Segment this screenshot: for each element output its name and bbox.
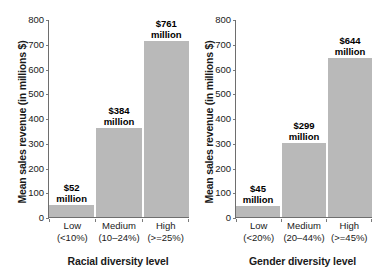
x-tick-sub: (>=45%) bbox=[327, 232, 372, 244]
two-panel-bar-chart-figure: Mean sales revenue (in millions $) 800 7… bbox=[0, 0, 379, 279]
x-tick-label: Low (<10%) bbox=[49, 220, 96, 248]
bar-value-line1: $299 bbox=[293, 120, 314, 131]
chart-panel-racial-diversity: Mean sales revenue (in millions $) 800 7… bbox=[0, 0, 196, 279]
x-tick-label: Medium (10–24%) bbox=[96, 220, 143, 248]
x-tick-main: Medium bbox=[287, 220, 321, 231]
bar-value-line1: $644 bbox=[339, 35, 360, 46]
bar-value-label: $52 million bbox=[40, 182, 104, 204]
x-axis-tick-labels: Low (<20%) Medium (20–44%) High (>=45%) bbox=[236, 220, 372, 248]
y-tick-label: 500 bbox=[207, 89, 231, 99]
x-tick-sub: (<10%) bbox=[49, 232, 96, 244]
y-tick-label: 700 bbox=[20, 40, 44, 50]
x-tick-main: Medium bbox=[102, 220, 136, 231]
y-tick-label: 200 bbox=[207, 164, 231, 174]
y-tick-label: 400 bbox=[20, 114, 44, 124]
bar-value-label: $299 million bbox=[272, 120, 336, 142]
bar-value-line1: $52 bbox=[64, 182, 80, 193]
bar-value-line2: million bbox=[318, 46, 379, 57]
x-tick-sub: (>=25%) bbox=[142, 232, 189, 244]
bar bbox=[282, 143, 326, 217]
bar-value-line1: $45 bbox=[250, 183, 266, 194]
bar-value-line2: million bbox=[272, 131, 336, 142]
bar-value-label: $644 million bbox=[318, 35, 379, 57]
bar-slot: $761 million bbox=[144, 20, 189, 217]
bar-value-label: $384 million bbox=[87, 105, 151, 127]
bar-value-line2: million bbox=[40, 193, 104, 204]
x-tick-main: High bbox=[156, 220, 176, 231]
y-tick-label: 300 bbox=[20, 139, 44, 149]
bar bbox=[96, 128, 141, 217]
plot-area: $52 million $384 million $761 million bbox=[48, 20, 189, 218]
x-tick-label: High (>=25%) bbox=[142, 220, 189, 248]
plot-area: $45 million $299 million $644 million bbox=[235, 20, 372, 218]
y-tick-label: 600 bbox=[207, 65, 231, 75]
y-tick-label: 0 bbox=[207, 213, 231, 223]
y-tick-label: 800 bbox=[20, 15, 44, 25]
bar bbox=[49, 205, 94, 217]
x-tick-sub: (10–24%) bbox=[96, 232, 143, 244]
bar bbox=[236, 206, 280, 217]
bar-value-label: $45 million bbox=[226, 183, 290, 205]
x-tick-main: High bbox=[340, 220, 360, 231]
x-tick-sub: (20–44%) bbox=[281, 232, 326, 244]
y-tick-label: 500 bbox=[20, 89, 44, 99]
bar-group: $45 million $299 million $644 million bbox=[236, 20, 372, 217]
x-axis-title: Gender diversity level bbox=[226, 255, 379, 267]
y-axis-tick-labels: 800 700 600 500 400 300 200 100 0 bbox=[207, 0, 231, 279]
x-axis-line bbox=[235, 217, 372, 218]
y-tick-label: 400 bbox=[207, 114, 231, 124]
bar-slot: $384 million bbox=[96, 20, 141, 217]
bar-value-label: $761 million bbox=[134, 18, 198, 40]
y-tick-label: 800 bbox=[207, 15, 231, 25]
bar-slot: $45 million bbox=[236, 20, 280, 217]
bar bbox=[144, 41, 189, 218]
bar bbox=[328, 58, 372, 217]
x-tick-label: Low (<20%) bbox=[236, 220, 281, 248]
bar-value-line2: million bbox=[226, 194, 290, 205]
x-tick-main: Low bbox=[250, 220, 267, 231]
x-tick-label: High (>=45%) bbox=[327, 220, 372, 248]
x-tick-sub: (<20%) bbox=[236, 232, 281, 244]
x-axis-title: Racial diversity level bbox=[40, 255, 196, 267]
y-tick-label: 0 bbox=[20, 213, 44, 223]
bar-value-line1: $761 bbox=[156, 18, 177, 29]
chart-panel-gender-diversity: Mean sales revenue (in millions $) 800 7… bbox=[196, 0, 379, 279]
y-tick-label: 600 bbox=[20, 65, 44, 75]
bar-slot: $644 million bbox=[328, 20, 372, 217]
y-tick-label: 700 bbox=[207, 40, 231, 50]
x-tick-label: Medium (20–44%) bbox=[281, 220, 326, 248]
x-axis-tick-labels: Low (<10%) Medium (10–24%) High (>=25%) bbox=[49, 220, 189, 248]
y-tick-label: 300 bbox=[207, 139, 231, 149]
y-axis-tick-labels: 800 700 600 500 400 300 200 100 0 bbox=[20, 0, 44, 279]
bar-value-line2: million bbox=[134, 29, 198, 40]
bar-value-line2: million bbox=[87, 116, 151, 127]
y-tick-label: 200 bbox=[20, 164, 44, 174]
bar-value-line1: $384 bbox=[108, 105, 129, 116]
x-axis-line bbox=[48, 217, 189, 218]
x-tick-main: Low bbox=[64, 220, 81, 231]
bar-group: $52 million $384 million $761 million bbox=[49, 20, 189, 217]
